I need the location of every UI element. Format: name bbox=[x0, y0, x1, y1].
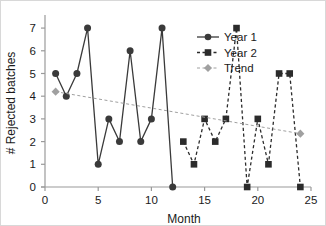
data-point bbox=[52, 70, 59, 77]
y-axis-tick-labels: 01234567 bbox=[30, 22, 37, 193]
series-year-1 bbox=[52, 25, 176, 191]
data-point bbox=[52, 88, 60, 96]
data-point bbox=[116, 138, 123, 145]
legend-item-year-1: Year 1 bbox=[197, 31, 257, 43]
data-point bbox=[286, 70, 293, 77]
data-point bbox=[296, 130, 304, 138]
legend-marker-diamond bbox=[204, 64, 212, 72]
data-point bbox=[159, 25, 166, 32]
legend-marker-circle bbox=[205, 34, 212, 41]
legend-marker-square bbox=[205, 49, 212, 56]
y-tick-label-6: 6 bbox=[30, 45, 36, 57]
data-point bbox=[180, 138, 187, 145]
x-tick-label-20: 20 bbox=[251, 194, 264, 206]
legend-label-1: Year 2 bbox=[224, 47, 257, 59]
data-point bbox=[95, 161, 102, 168]
data-point bbox=[265, 161, 272, 168]
data-point bbox=[191, 161, 198, 168]
y-tick-label-0: 0 bbox=[30, 181, 36, 193]
data-point bbox=[105, 115, 112, 122]
y-tick-label-3: 3 bbox=[30, 113, 36, 125]
series-line-2 bbox=[56, 92, 301, 134]
x-tick-label-15: 15 bbox=[198, 194, 211, 206]
y-tick-label-1: 1 bbox=[30, 158, 36, 170]
rejected-batches-line-chart: 01234567 0510152025 Month # Rejected bat… bbox=[1, 1, 326, 226]
x-axis-ticks bbox=[45, 187, 311, 191]
chart-legend: Year 1Year 2Trend bbox=[197, 31, 257, 74]
y-axis-title: # Rejected batches bbox=[4, 52, 18, 155]
data-point bbox=[137, 138, 144, 145]
data-point bbox=[212, 138, 219, 145]
series-trend bbox=[52, 88, 305, 138]
x-tick-label-5: 5 bbox=[95, 194, 101, 206]
data-point bbox=[255, 116, 262, 123]
data-point bbox=[169, 184, 176, 191]
data-point bbox=[244, 184, 251, 191]
x-tick-label-25: 25 bbox=[305, 194, 318, 206]
y-tick-label-7: 7 bbox=[30, 22, 36, 34]
data-point bbox=[84, 25, 91, 32]
chart-figure: 01234567 0510152025 Month # Rejected bat… bbox=[0, 0, 326, 226]
legend-label-0: Year 1 bbox=[224, 31, 257, 43]
series-line-0 bbox=[56, 28, 173, 187]
legend-item-trend: Trend bbox=[197, 62, 254, 74]
data-series-layer bbox=[52, 25, 305, 191]
legend-label-2: Trend bbox=[224, 62, 254, 74]
data-point bbox=[148, 115, 155, 122]
x-axis-tick-labels: 0510152025 bbox=[42, 194, 318, 206]
y-tick-label-4: 4 bbox=[30, 90, 37, 102]
data-point bbox=[297, 184, 304, 191]
data-point bbox=[127, 47, 134, 54]
y-tick-label-5: 5 bbox=[30, 68, 36, 80]
data-point bbox=[73, 70, 80, 77]
legend-item-year-2: Year 2 bbox=[197, 47, 257, 59]
x-tick-label-0: 0 bbox=[42, 194, 48, 206]
data-point bbox=[276, 70, 283, 77]
x-axis-title: Month bbox=[167, 212, 200, 226]
x-tick-label-10: 10 bbox=[145, 194, 158, 206]
y-tick-label-2: 2 bbox=[30, 136, 36, 148]
